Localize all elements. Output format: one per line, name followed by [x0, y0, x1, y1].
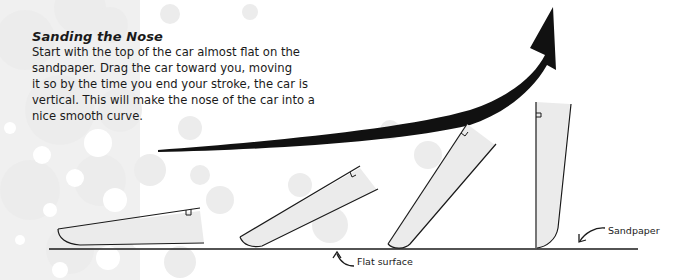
body-line: Start with the top of the car almost fla… — [32, 44, 352, 60]
car-position-2 — [240, 166, 378, 247]
section-heading: Sanding the Nose — [32, 29, 352, 44]
body-line: it so by the time you end your stroke, t… — [32, 76, 352, 92]
car-position-4 — [536, 102, 571, 248]
instruction-text: Sanding the Nose Start with the top of t… — [32, 29, 352, 124]
car-position-3 — [388, 124, 496, 248]
body-line: vertical. This will make the nose of the… — [32, 92, 352, 108]
body-line: nice smooth curve. — [32, 108, 352, 124]
flat-surface-pointer-icon — [333, 252, 354, 266]
instruction-body: Start with the top of the car almost fla… — [32, 44, 352, 124]
sandpaper-pointer-icon — [579, 228, 605, 242]
car-position-1 — [58, 208, 204, 245]
sanding-diagram: Sanding the Nose Start with the top of t… — [0, 0, 698, 280]
body-line: sandpaper. Drag the car toward you, movi… — [32, 60, 352, 76]
flat-surface-label: Flat surface — [357, 256, 413, 267]
sandpaper-label: Sandpaper — [608, 225, 660, 236]
